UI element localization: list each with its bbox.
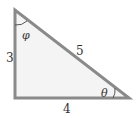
- triangle-shape: [15, 10, 129, 98]
- side-label-horizontal: 4: [63, 102, 71, 116]
- side-label-vertical: 3: [6, 51, 14, 65]
- angle-label-theta: θ: [101, 87, 108, 100]
- angle-label-phi: φ: [22, 29, 30, 42]
- side-label-hypotenuse: 5: [76, 44, 84, 58]
- triangle-diagram: 3 5 4 φ θ: [0, 0, 138, 118]
